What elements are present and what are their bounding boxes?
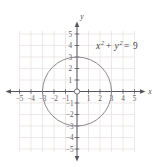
x-tick-label: 1 <box>87 95 91 103</box>
y-tick-label: −5 <box>66 146 74 154</box>
equation-right-side: 9 <box>133 41 138 51</box>
y-tick-label: 4 <box>68 42 72 50</box>
x-tick-label: −5 <box>16 95 24 103</box>
x-axis-label: x <box>147 87 152 96</box>
y-tick-label: −1 <box>66 100 74 108</box>
x-tick-label: 2 <box>98 95 102 103</box>
y-tick-label: −3 <box>66 123 74 131</box>
x-tick-label: −2 <box>50 95 58 103</box>
equation-plus-sign: + <box>106 41 111 51</box>
figure-container: −5 −4 −3 −2 −1 1 2 3 4 5 5 4 3 2 1 −1 −2… <box>0 0 158 167</box>
y-tick-label: 5 <box>68 31 72 39</box>
y-tick-label: −2 <box>66 111 74 119</box>
equation-x-exponent: 2 <box>101 39 104 46</box>
y-tick-label: 2 <box>68 65 72 73</box>
origin-marker <box>74 89 79 94</box>
y-tick-label: 1 <box>68 77 72 85</box>
x-tick-label: 5 <box>133 95 137 103</box>
x-tick-label: −4 <box>27 95 35 103</box>
y-axis-label: y <box>79 12 84 21</box>
x-tick-label: 4 <box>121 95 125 103</box>
coordinate-plane-plot: −5 −4 −3 −2 −1 1 2 3 4 5 5 4 3 2 1 −1 −2… <box>0 0 158 167</box>
y-tick-label: −4 <box>66 134 74 142</box>
equation-y-exponent: 2 <box>120 39 123 46</box>
equation-equals-sign: = <box>124 41 129 51</box>
